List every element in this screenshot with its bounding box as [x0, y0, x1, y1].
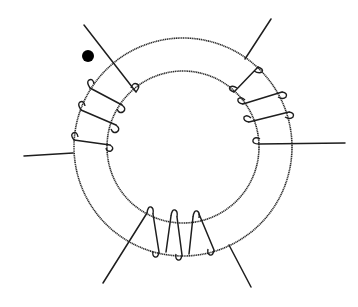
winding-bottom-turn-4-top-loop — [193, 211, 199, 218]
winding-left-turn-1-outer-loop — [88, 80, 94, 89]
polarity-dot-marker — [82, 50, 94, 62]
winding-bottom-turn-5 — [199, 214, 214, 250]
lead-upper-right — [245, 19, 271, 59]
winding-right-turn-2 — [243, 92, 282, 104]
lead-right — [259, 143, 345, 144]
winding-bottom — [103, 207, 251, 287]
winding-left-turn-1 — [90, 88, 122, 105]
winding-bottom-turn-2-top-loop — [171, 210, 177, 217]
winding-bottom-turn-1-top-loop — [147, 207, 153, 214]
winding-left-turn-3 — [74, 140, 110, 145]
winding-right — [230, 19, 346, 144]
lead-lower-right — [229, 245, 251, 287]
winding-right-turn-3 — [249, 112, 289, 122]
winding-left — [24, 25, 139, 156]
winding-bottom-turn-3-bottom-loop — [176, 254, 182, 260]
lead-left — [24, 153, 73, 156]
toroid-core — [74, 38, 292, 256]
winding-left-turn-3-inner-loop — [111, 125, 119, 133]
winding-bottom-turn-1 — [153, 214, 159, 252]
toroid-transformer-diagram — [0, 0, 358, 307]
winding-left-turn-2 — [81, 110, 116, 125]
core-inner-edge — [107, 71, 259, 223]
